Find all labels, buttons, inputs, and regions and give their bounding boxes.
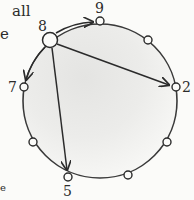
label-7: 7 [8,79,17,95]
label-2: 2 [182,79,191,95]
node-5 [64,173,72,181]
node-8 [43,33,58,48]
node-9 [96,17,104,25]
node-unlabeled-2 [163,138,171,146]
node-7 [20,83,28,91]
node-unlabeled-4 [29,138,37,146]
label-5: 5 [63,183,72,199]
node-2 [172,83,180,91]
node-unlabeled-1 [144,36,152,44]
node-unlabeled-3 [124,171,132,179]
label-9: 9 [95,0,104,16]
circular-graph-diagram: 8 9 2 7 5 [0,0,194,200]
label-8: 8 [38,18,47,34]
